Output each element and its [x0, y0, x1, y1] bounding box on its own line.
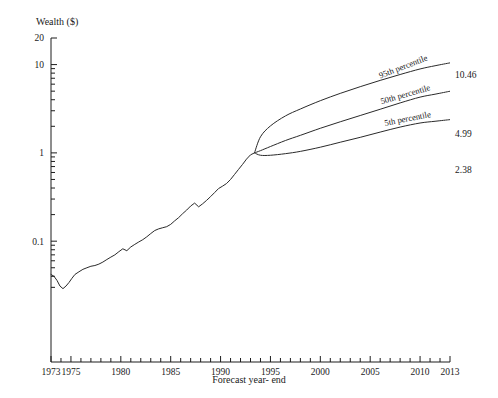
y-axis-tick-label: 10	[35, 60, 45, 70]
p50-forecast-line	[254, 91, 450, 153]
y-axis-tick-label: 0.1	[32, 237, 44, 247]
x-axis-tick-label: 1973	[42, 367, 61, 377]
y-axis-ticks	[51, 38, 57, 287]
x-axis-tick-label: 2000	[311, 367, 330, 377]
y-axis-tick-label: 1	[39, 148, 44, 158]
x-axis-tick-label: 2010	[411, 367, 430, 377]
y-axis-tick-label: 20	[35, 33, 45, 43]
p95-end-value: 10.46	[455, 70, 477, 80]
wealth-forecast-chart: 201010.1 1973197519801985199019952000200…	[0, 0, 498, 398]
p05-forecast-line	[254, 120, 450, 156]
y-axis-tick-labels: 201010.1	[32, 33, 44, 246]
x-axis-tick-label: 2013	[441, 367, 460, 377]
p50-annotation-label: 50th percentile	[379, 82, 431, 106]
x-axis-tick-label: 1980	[111, 367, 130, 377]
x-axis-ticks	[51, 356, 450, 362]
y-axis-title: Wealth ($)	[36, 16, 78, 28]
x-axis-title: Forecast year- end	[212, 374, 286, 385]
x-axis-tick-label: 1985	[161, 367, 180, 377]
p95-annotation-label: 95th percentile	[377, 53, 429, 81]
chart-canvas: 201010.1 1973197519801985199019952000200…	[0, 0, 498, 398]
historical-wealth-line	[51, 153, 254, 289]
p50-end-value: 4.99	[455, 129, 472, 139]
x-axis-tick-label: 1975	[61, 367, 80, 377]
p05-end-value: 2.38	[455, 165, 472, 175]
x-axis-tick-label: 2005	[361, 367, 380, 377]
